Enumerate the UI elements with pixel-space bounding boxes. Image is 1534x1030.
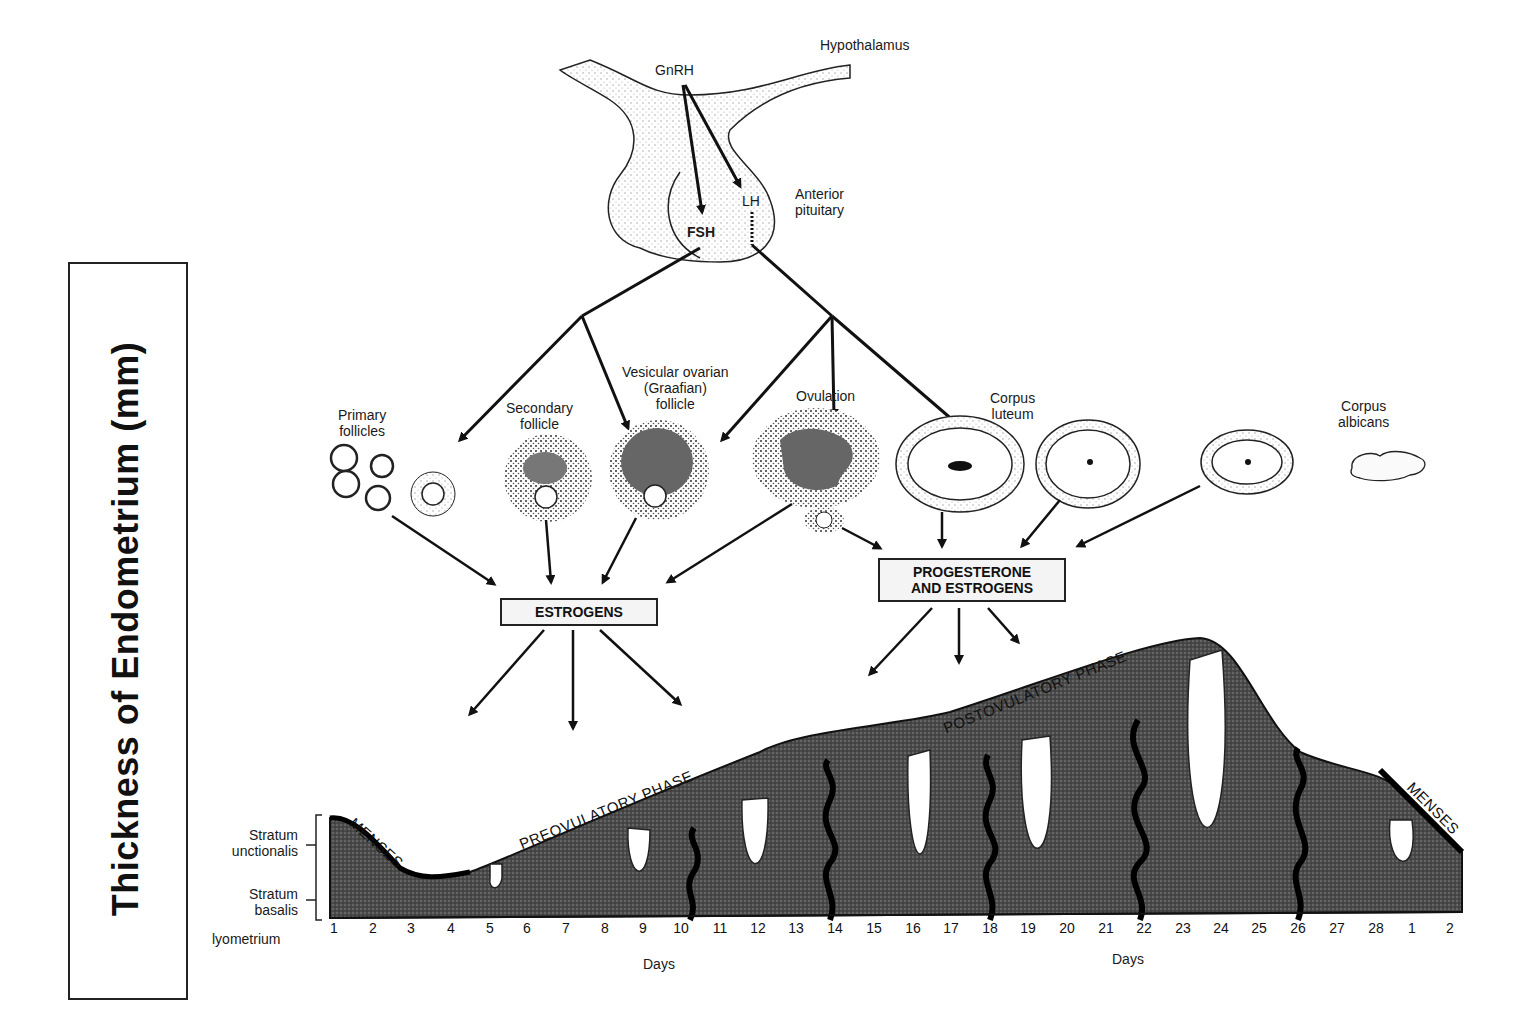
days-axis-label-left: Days: [643, 956, 675, 972]
fsh-line: [582, 248, 700, 316]
day-tick: 24: [1206, 920, 1236, 936]
corpus-luteum-label: Corpus luteum: [990, 390, 1035, 422]
day-tick: 5: [475, 920, 505, 936]
day-tick: 12: [743, 920, 773, 936]
day-tick: 22: [1129, 920, 1159, 936]
secondary-follicle-label: Secondary follicle: [506, 400, 573, 432]
day-tick: 13: [781, 920, 811, 936]
day-tick: 2: [1435, 920, 1465, 936]
day-tick: 2: [358, 920, 388, 936]
gnrh-label: GnRH: [655, 62, 694, 78]
day-tick: 10: [666, 920, 696, 936]
day-tick: 7: [551, 920, 581, 936]
secondary-follicle-illustration: [504, 434, 592, 522]
day-tick: 25: [1244, 920, 1274, 936]
day-tick: 19: [1013, 920, 1043, 936]
day-tick: 4: [436, 920, 466, 936]
stratum-functionalis-label: Stratum unctionalis: [204, 827, 298, 859]
day-tick: 9: [628, 920, 658, 936]
day-tick: 14: [820, 920, 850, 936]
day-tick: 15: [859, 920, 889, 936]
day-tick: 8: [590, 920, 620, 936]
estrogens-box: ESTROGENS: [500, 598, 658, 626]
day-tick: 21: [1091, 920, 1121, 936]
lh-label: LH: [742, 193, 760, 209]
ovulation-illustration: [752, 408, 880, 533]
days-axis-label-right: Days: [1112, 951, 1144, 967]
myometrium-label: lyometrium: [212, 931, 280, 947]
primary-follicles-illustration: [331, 445, 455, 516]
day-tick: 17: [936, 920, 966, 936]
day-tick: 28: [1361, 920, 1391, 936]
stratum-basalis-label: Stratum basalis: [204, 886, 298, 918]
corpus-albicans-label: Corpus albicans: [1338, 398, 1389, 430]
diagram-canvas: [0, 0, 1534, 1030]
hypothalamus-label: Hypothalamus: [820, 37, 910, 53]
day-tick: 6: [512, 920, 542, 936]
corpus-albicans-illustration: [1351, 452, 1425, 481]
day-tick: 18: [975, 920, 1005, 936]
ovulation-label: Ovulation: [796, 388, 855, 404]
graafian-follicle-illustration: [609, 420, 709, 520]
day-tick: 1: [1397, 920, 1427, 936]
day-tick: 11: [705, 920, 735, 936]
lh-line: [752, 245, 832, 316]
day-tick: 1: [319, 920, 349, 936]
primary-follicles-label: Primary follicles: [338, 407, 386, 439]
day-tick: 20: [1052, 920, 1082, 936]
day-tick: 27: [1322, 920, 1352, 936]
day-tick: 26: [1283, 920, 1313, 936]
day-tick: 3: [396, 920, 426, 936]
fsh-label: FSH: [687, 224, 715, 240]
day-tick: 23: [1168, 920, 1198, 936]
corpus-luteum-illustration: [896, 416, 1293, 512]
graafian-follicle-label: Vesicular ovarian (Graafian) follicle: [622, 364, 729, 412]
layer-bracket: [306, 815, 322, 920]
anterior-pituitary-label: Anterior pituitary: [795, 186, 844, 218]
progesterone-estrogens-box: PROGESTERONE AND ESTROGENS: [878, 558, 1066, 602]
day-tick: 16: [898, 920, 928, 936]
